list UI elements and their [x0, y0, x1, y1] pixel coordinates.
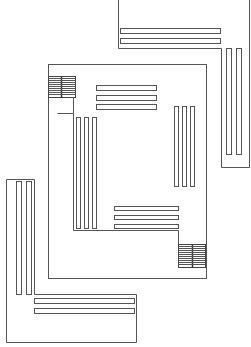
floor-plan-diagram	[0, 0, 251, 347]
top-right-wing-outline	[119, 0, 250, 168]
central-top-bar-1	[97, 86, 157, 91]
staircase-top-left	[49, 77, 76, 98]
top-right-vbar-2	[237, 49, 242, 155]
bottom-left-hbar-1	[35, 299, 135, 304]
central-bottom-bar-3	[115, 225, 179, 229]
bottom-left-hbar-2	[35, 309, 135, 314]
top-right-vbar-1	[227, 49, 232, 155]
bottom-left-vbar-1	[17, 182, 22, 295]
central-room	[49, 65, 207, 279]
central-right-bar-2	[183, 107, 187, 187]
central-top-bar-2	[97, 96, 157, 101]
top-right-hbar-2	[121, 39, 221, 44]
bottom-left-vbar-2	[27, 182, 32, 295]
central-left-bar-3	[93, 118, 97, 229]
central-bottom-bar-2	[115, 216, 179, 220]
central-left-bar-2	[85, 118, 89, 229]
top-right-wing	[119, 0, 250, 168]
central-right-bar-3	[191, 107, 195, 187]
central-left-bar-1	[77, 118, 81, 229]
staircase-bottom-right	[179, 245, 206, 268]
central-bottom-bar-1	[115, 207, 179, 211]
central-top-bar-3	[97, 105, 157, 110]
bottom-left-wing	[7, 180, 137, 343]
central-right-bar-1	[175, 107, 179, 187]
top-right-hbar-1	[121, 29, 221, 34]
